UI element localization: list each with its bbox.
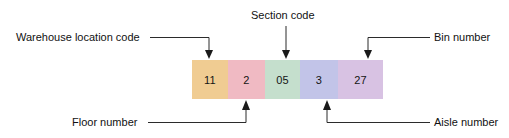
code-segment-warehouse-location-code[interactable]: 11 [192,60,228,99]
leader-section-code [282,26,290,59]
code-segment-aisle-number[interactable]: 3 [300,60,338,99]
code-segment-section-code[interactable]: 05 [265,60,300,99]
annotation-label-floor-number: Floor number [72,116,137,129]
annotation-label-bin-number: Bin number [434,31,490,44]
leader-bin-number [364,38,430,60]
leader-floor-number [148,100,250,123]
code-segment-bin-number[interactable]: 27 [338,60,383,99]
warehouse-code-bar: 11 2 05 3 27 [192,60,383,99]
annotation-label-aisle-number: Aisle number [434,116,498,129]
leader-warehouse-location-code [150,38,213,60]
diagram-canvas: Warehouse location code Section code Bin… [0,0,509,138]
annotation-label-section-code: Section code [251,9,315,22]
code-segment-floor-number[interactable]: 2 [228,60,265,99]
leader-aisle-number [323,100,430,123]
annotation-label-warehouse-location-code: Warehouse location code [16,31,140,44]
